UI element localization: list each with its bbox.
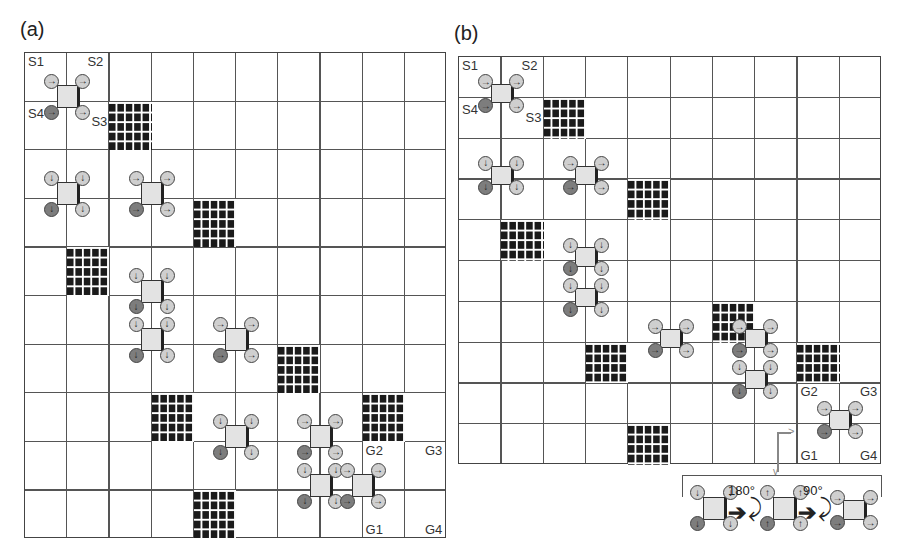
cell-label-s4: S4: [28, 106, 44, 121]
obstacle-cell: [194, 199, 236, 248]
obstacle-cell: [67, 247, 109, 296]
rotor-arrow-down-icon: ↓: [244, 414, 259, 429]
rotor-arrow-up-icon: ↑: [760, 516, 775, 531]
robot-b-5: ↓↓↓↓: [563, 278, 609, 317]
grid-line-horizontal: [459, 301, 880, 302]
robot-body: [660, 329, 681, 348]
turn-arrow-icon-1: ➔: [728, 500, 746, 526]
rotation-angle-90: 90°: [803, 483, 823, 498]
rotor-arrow-right-icon: →: [160, 171, 175, 186]
robot-body: [225, 328, 246, 351]
cell-label-g4: G4: [425, 522, 442, 537]
robot-body: [491, 166, 512, 185]
robot-body: [491, 84, 512, 103]
obstacle-cell: [586, 343, 628, 384]
rotor-arrow-right-icon: →: [848, 424, 863, 439]
cell-label-s1: S1: [462, 58, 478, 73]
rotor-arrow-right-icon: →: [160, 202, 175, 217]
robot-b-8: ↓↓↓↓: [732, 360, 778, 399]
cell-label-g2: G2: [800, 384, 817, 399]
rotor-arrow-down-icon: ↓: [563, 302, 578, 317]
robot-body: [141, 280, 162, 303]
robot-body: [225, 425, 246, 448]
rotor-arrow-down-icon: ↓: [297, 494, 312, 509]
robot-b-1: →→→→: [478, 74, 524, 113]
rotor-arrow-down-icon: ↓: [563, 238, 578, 253]
robot-body: [703, 497, 725, 520]
robot-b-4: ↓↓↓↓: [563, 238, 609, 277]
rotor-arrow-down-icon: ↓: [297, 463, 312, 478]
rotor-arrow-right-icon: →: [648, 343, 663, 358]
robot-inset-3: →→→→: [830, 490, 878, 530]
robot-body: [745, 329, 766, 348]
rotor-arrow-right-icon: →: [679, 319, 694, 334]
rotor-arrow-down-icon: ↓: [244, 445, 259, 460]
robot-body: [575, 166, 596, 185]
robot-b-6: →→→→: [648, 319, 694, 358]
cell-label-g1: G1: [366, 522, 383, 537]
rotor-arrow-right-icon: →: [44, 74, 59, 89]
rotor-arrow-down-icon: ↓: [690, 485, 705, 500]
rotor-arrow-right-icon: →: [340, 463, 355, 478]
rotor-arrow-down-icon: ↓: [160, 317, 175, 332]
rotor-arrow-right-icon: →: [213, 348, 228, 363]
rotor-arrow-right-icon: →: [509, 74, 524, 89]
rotor-arrow-right-icon: →: [817, 401, 832, 416]
robot-a-8: →→→→: [297, 414, 343, 460]
obstacle-cell: [544, 98, 586, 139]
rotor-arrow-down-icon: ↓: [509, 180, 524, 195]
robot-body: [745, 370, 766, 389]
panel-label-b: (b): [454, 22, 478, 45]
rotor-arrow-down-icon: ↓: [690, 516, 705, 531]
rotor-arrow-right-icon: →: [129, 202, 144, 217]
rotor-arrow-right-icon: →: [328, 414, 343, 429]
rotor-arrow-right-icon: →: [732, 343, 747, 358]
rotor-arrow-right-icon: →: [340, 494, 355, 509]
cell-label-g3: G3: [425, 443, 442, 458]
rotor-arrow-right-icon: →: [863, 515, 878, 530]
rotor-arrow-down-icon: ↓: [213, 445, 228, 460]
robot-a-2: ↓↓↓↓: [44, 171, 90, 217]
rotor-arrow-right-icon: →: [763, 343, 778, 358]
robot-a-10: →→→→: [340, 463, 386, 509]
obstacle-cell: [278, 345, 320, 394]
rotor-arrow-right-icon: →: [509, 98, 524, 113]
robot-body: [773, 497, 795, 520]
rotation-angle-180: 180°: [728, 483, 755, 498]
robot-b-7: →→→→: [732, 319, 778, 358]
cell-label-s1: S1: [28, 54, 44, 69]
rotor-arrow-right-icon: →: [371, 463, 386, 478]
rotor-arrow-right-icon: →: [563, 180, 578, 195]
obstacle-cell: [797, 343, 839, 384]
rotor-arrow-right-icon: →: [830, 490, 845, 505]
rotor-arrow-down-icon: ↓: [129, 299, 144, 314]
rotor-arrow-down-icon: ↓: [763, 360, 778, 375]
robot-body: [310, 425, 331, 448]
rotor-arrow-right-icon: →: [478, 98, 493, 113]
inset-stage-3: →→→→: [830, 490, 878, 530]
cell-label-g4: G4: [860, 448, 877, 463]
rotor-arrow-down-icon: ↓: [129, 348, 144, 363]
cell-label-g2: G2: [366, 443, 383, 458]
robot-body: [843, 500, 865, 520]
rotor-arrow-down-icon: ↓: [129, 317, 144, 332]
rotor-arrow-down-icon: ↓: [75, 171, 90, 186]
grid-line-horizontal: [25, 149, 445, 150]
robot-a-7: ↓↓↓↓: [213, 414, 259, 460]
robot-body: [829, 410, 850, 429]
robot-body: [57, 85, 78, 108]
grid-line-horizontal: [459, 138, 880, 139]
pointer-arrowhead-icon: >: [788, 425, 794, 437]
obstacle-cell: [501, 220, 543, 261]
robot-body: [141, 182, 162, 205]
rotor-arrow-down-icon: ↓: [44, 202, 59, 217]
rotor-arrow-down-icon: ↓: [594, 238, 609, 253]
rotor-arrow-right-icon: →: [594, 156, 609, 171]
cell-label-s4: S4: [462, 102, 478, 117]
robot-b-2: ↓↓↓↓: [478, 156, 524, 195]
rotor-arrow-up-icon: ↑: [760, 485, 775, 500]
rotor-arrow-down-icon: ↓: [763, 384, 778, 399]
rotor-arrow-right-icon: →: [848, 401, 863, 416]
obstacle-cell: [363, 393, 405, 442]
robot-body: [141, 328, 162, 351]
